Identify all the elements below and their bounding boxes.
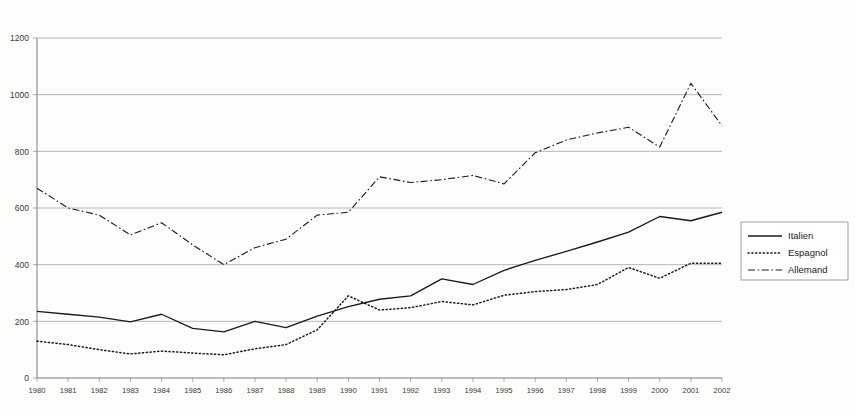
x-tick-label: 1993 [433, 386, 450, 395]
x-tick-label: 1985 [184, 386, 201, 395]
x-tick-label: 1981 [60, 386, 77, 395]
data-series-group [37, 83, 722, 354]
x-tick-labels: 1980198119821983198419851986198719881989… [29, 386, 731, 395]
y-tick-label: 1000 [10, 90, 29, 100]
x-tick-label: 2000 [651, 386, 668, 395]
y-tick-label: 1200 [10, 33, 29, 43]
x-tick-label: 1982 [91, 386, 108, 395]
y-tick-label: 600 [15, 203, 29, 213]
x-tick-label: 1988 [278, 386, 295, 395]
y-tick-label: 0 [24, 373, 29, 383]
x-tick-label: 1999 [620, 386, 637, 395]
x-tick-label: 1994 [464, 386, 481, 395]
y-tick-label: 200 [15, 317, 29, 327]
x-tick-label: 1991 [371, 386, 388, 395]
x-tick-label: 1980 [29, 386, 46, 395]
x-tick-label: 2001 [682, 386, 699, 395]
legend: ItalienEspagnolAllemand [741, 222, 848, 280]
y-axis [33, 38, 37, 378]
legend-label-allemand: Allemand [788, 264, 828, 275]
x-tick-label: 2002 [714, 386, 731, 395]
x-tick-label: 1984 [153, 386, 170, 395]
x-tick-label: 1990 [340, 386, 357, 395]
x-tick-label: 1996 [527, 386, 544, 395]
x-tick-label: 1998 [589, 386, 606, 395]
x-tick-label: 1989 [309, 386, 326, 395]
x-tick-label: 1987 [247, 386, 264, 395]
gridlines-group [37, 38, 722, 321]
series-line-espagnol [37, 263, 722, 355]
x-axis [37, 378, 722, 382]
chart-canvas: 020040060080010001200 198019811982198319… [0, 0, 855, 415]
y-tick-label: 800 [15, 147, 29, 157]
legend-label-espagnol: Espagnol [788, 247, 828, 258]
y-tick-label: 400 [15, 260, 29, 270]
legend-label-italien: Italien [788, 230, 813, 241]
x-tick-label: 1992 [402, 386, 419, 395]
x-tick-label: 1997 [558, 386, 575, 395]
series-line-allemand [37, 83, 722, 264]
y-tick-labels: 020040060080010001200 [10, 33, 29, 383]
line-chart: 020040060080010001200 198019811982198319… [0, 0, 855, 415]
x-tick-label: 1983 [122, 386, 139, 395]
x-tick-label: 1995 [496, 386, 513, 395]
x-tick-label: 1986 [215, 386, 232, 395]
